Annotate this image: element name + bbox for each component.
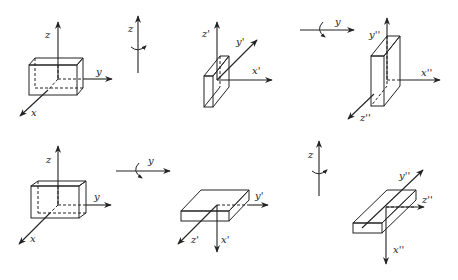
top-frame-2: z' y' x' (201, 22, 272, 107)
label-z-prime: z' (190, 234, 199, 245)
label-y-double-prime: y'' (398, 170, 410, 181)
label-z-double-prime: z'' (421, 194, 433, 205)
box-flat (181, 190, 249, 221)
bottom-frame-3: y'' z'' x'' (353, 170, 433, 264)
bottom-frame-2: y' z' x' (178, 190, 268, 252)
y-double-prime-axis (362, 170, 423, 228)
label-x-prime: x' (252, 65, 260, 76)
label-y-prime: y' (254, 190, 263, 201)
label-x-double-prime: x'' (393, 244, 404, 255)
label-z: z (45, 154, 52, 165)
top-frame-3: y'' x'' z'' (348, 18, 440, 123)
bottom-rotation-2: z (307, 141, 327, 196)
label-y: y (95, 66, 102, 77)
label-x-double-prime: x'' (421, 67, 432, 78)
box-diagonal-flat (353, 190, 416, 233)
label-y-prime: y' (235, 36, 244, 47)
label-z-prime: z' (201, 28, 210, 39)
box-wide (29, 58, 83, 95)
rotation-axis-label: y (334, 16, 341, 27)
top-frame-1: z y x (20, 22, 112, 118)
top-rotation-1: z (127, 16, 146, 73)
rotation-diagram: z y x z z' y' x' y (0, 0, 458, 280)
label-y-double-prime: y'' (368, 29, 380, 40)
label-x: x (30, 233, 36, 244)
label-x: x (31, 107, 37, 118)
label-z-double-prime: z'' (359, 112, 371, 123)
label-y: y (93, 191, 100, 202)
bottom-rotation-1: y (116, 155, 170, 178)
box-tall-thin (371, 36, 400, 106)
rotation-axis-label: y (147, 155, 154, 166)
rotation-axis-label: z (127, 23, 134, 34)
label-x-prime: x' (221, 234, 229, 245)
rotation-axis-label: z (307, 149, 314, 160)
top-rotation-2: y (300, 16, 354, 37)
label-z: z (44, 29, 51, 40)
bottom-frame-1: z y x (19, 146, 111, 244)
